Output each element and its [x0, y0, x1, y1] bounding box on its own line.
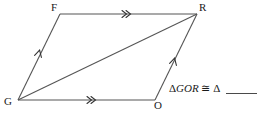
tick-mark-GF-single-chevron — [35, 50, 42, 57]
vertex-label-G: G — [4, 96, 12, 107]
vertex-label-R: R — [199, 2, 206, 13]
congruent-symbol: ≅ — [201, 82, 210, 94]
triangle-symbol-second: Δ — [213, 82, 220, 94]
vertex-label-O: O — [154, 100, 162, 111]
congruence-statement: ΔGOR ≅ Δ — [169, 82, 220, 94]
first-triangle-name: GOR — [176, 82, 199, 94]
geometry-worksheet-figure: F R O G ΔGOR ≅ Δ — [0, 0, 258, 113]
parallelogram-frog-diagram — [0, 0, 258, 113]
segment-GF — [18, 14, 60, 100]
answer-blank[interactable] — [226, 93, 257, 94]
vertex-label-F: F — [51, 2, 57, 13]
